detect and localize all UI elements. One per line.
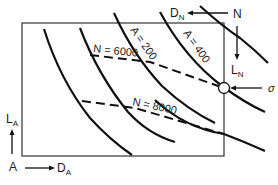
l-n-arrowhead [235, 54, 240, 60]
origin-a-label: A [9, 160, 17, 174]
label-a-400: A = 400 [181, 27, 212, 65]
l-a-label: LA [6, 112, 19, 128]
d-a-arrowhead [49, 166, 55, 171]
edgeworth-box-diagram: σ A DA LA N DN LN A = 200 A = 400 N = 60… [0, 0, 278, 185]
l-a-arrowhead [10, 129, 15, 135]
sigma-label: σ [268, 82, 275, 94]
l-n-label: LN [231, 63, 244, 79]
origin-n-label: N [233, 7, 242, 21]
d-a-label: DA [57, 161, 72, 177]
spacer2 [150, 118, 265, 152]
d-n-arrowhead [187, 11, 193, 16]
d-n-label: DN [170, 6, 185, 22]
sigma-point [219, 83, 230, 94]
sigma-arrowhead [230, 86, 236, 91]
